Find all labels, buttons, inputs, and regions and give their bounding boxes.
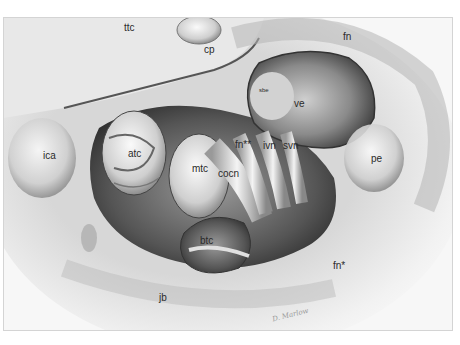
label-svn: svn <box>283 141 299 151</box>
label-fn-top: fn <box>343 32 351 42</box>
label-ve: ve <box>294 99 305 109</box>
label-cocn: cocn <box>218 169 239 179</box>
illustration-frame: ttc cp fn sbe ve ica atc fn** ivn svn pe… <box>3 17 453 331</box>
label-mtc: mtc <box>192 164 208 174</box>
label-ivn: ivn <box>263 141 276 151</box>
label-ttc: ttc <box>124 23 135 33</box>
label-jb: jb <box>159 293 167 303</box>
label-ica: ica <box>43 151 56 161</box>
label-atc: atc <box>128 149 141 159</box>
label-fn-double-star: fn** <box>235 140 251 150</box>
label-fn-star: fn* <box>333 261 345 271</box>
label-btc: btc <box>200 236 213 246</box>
label-sbe: sbe <box>259 87 269 93</box>
label-cp: cp <box>204 45 215 55</box>
label-pe: pe <box>371 154 382 164</box>
